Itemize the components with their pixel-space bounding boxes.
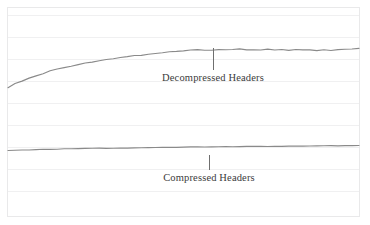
series-label-compressed: Compressed Headers — [163, 172, 255, 183]
annotation-leader-lines — [210, 48, 214, 170]
data-traces — [8, 48, 359, 150]
gridlines — [8, 16, 359, 192]
plot-canvas — [0, 0, 370, 225]
figure-root: Decompressed Headers Compressed Headers — [0, 0, 370, 225]
series-label-decompressed: Decompressed Headers — [162, 72, 264, 83]
